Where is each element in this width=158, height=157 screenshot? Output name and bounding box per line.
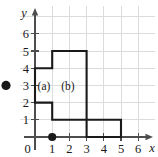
x-tick-labels: 0 1 2 3 4 5 6 <box>24 142 141 156</box>
y-tick-label-1: 1 <box>23 113 29 127</box>
x-tick-label-1: 1 <box>49 142 55 156</box>
x-tick-label-5: 5 <box>118 142 124 156</box>
x-tick-label-2: 2 <box>66 142 72 156</box>
x-tick-label-4: 4 <box>101 142 108 156</box>
step-function-curve <box>35 51 121 137</box>
y-axis-label: y <box>19 6 27 20</box>
y-tick-label-2: 2 <box>23 96 29 110</box>
y-tick-label-5: 5 <box>23 45 29 59</box>
step-function-figure: 1 2 3 4 5 6 0 1 2 3 4 5 6 y x (a) (b) <box>0 0 158 157</box>
x-tick-label-3: 3 <box>83 142 89 156</box>
bullet-marker-icon <box>1 81 10 90</box>
x-tick-label-6: 6 <box>135 142 141 156</box>
graph-canvas: 1 2 3 4 5 6 0 1 2 3 4 5 6 y x (a) (b) <box>0 0 158 157</box>
y-tick-label-6: 6 <box>23 27 29 41</box>
y-axis-arrowhead <box>32 8 38 16</box>
y-tick-labels: 1 2 3 4 5 6 <box>23 27 30 127</box>
x-axis-point-1-marker <box>48 133 56 141</box>
x-axis-arrowhead <box>146 134 154 140</box>
y-tick-label-4: 4 <box>23 62 30 76</box>
y-tick-label-3: 3 <box>23 79 29 93</box>
region-b-label: (b) <box>61 80 75 93</box>
region-a-label: (a) <box>38 80 51 93</box>
x-tick-label-0: 0 <box>24 142 30 156</box>
x-axis-label: x <box>148 141 155 155</box>
